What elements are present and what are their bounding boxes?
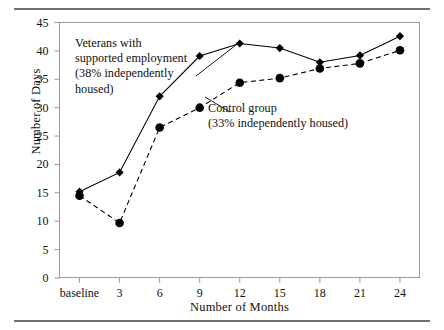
data-point-1-8 bbox=[396, 46, 405, 55]
annotation-veterans-line-3: housed) bbox=[75, 82, 255, 97]
y-tick-label-10: 10 bbox=[13, 215, 49, 227]
y-axis-tick-marks bbox=[55, 23, 60, 279]
x-tick-label-baseline: baseline bbox=[60, 287, 99, 299]
annotation-veterans-line-2: (38% independently bbox=[75, 66, 255, 81]
y-tick-label-35: 35 bbox=[13, 73, 49, 85]
data-point-1-3 bbox=[195, 103, 204, 112]
annotation-veterans-line-0: Veterans with bbox=[75, 36, 255, 51]
data-point-1-2 bbox=[155, 123, 164, 132]
x-axis-title: Number of Months bbox=[59, 300, 420, 315]
data-point-0-7 bbox=[356, 51, 364, 59]
y-tick-label-20: 20 bbox=[13, 158, 49, 170]
x-tick-label-21: 21 bbox=[354, 287, 366, 299]
x-tick-label-12: 12 bbox=[234, 287, 246, 299]
data-point-1-6 bbox=[316, 64, 325, 73]
data-point-0-8 bbox=[396, 32, 404, 40]
annotation-control-line-1: (33% independently housed) bbox=[208, 116, 408, 131]
figure-container: Number of Days Number of Months 05101520… bbox=[0, 0, 444, 330]
annotation-veterans: Veterans with supported employment (38% … bbox=[75, 36, 255, 97]
annotation-control-group: Control group (33% independently housed) bbox=[208, 101, 408, 131]
y-tick-label-40: 40 bbox=[13, 45, 49, 57]
y-tick-label-5: 5 bbox=[13, 244, 49, 256]
annotation-control-line-0: Control group bbox=[208, 101, 408, 116]
y-tick-label-0: 0 bbox=[13, 272, 49, 284]
x-tick-label-3: 3 bbox=[117, 287, 123, 299]
x-tick-label-24: 24 bbox=[394, 287, 406, 299]
data-point-1-1 bbox=[115, 219, 124, 228]
x-tick-label-6: 6 bbox=[157, 287, 163, 299]
y-tick-label-30: 30 bbox=[13, 102, 49, 114]
x-tick-label-18: 18 bbox=[314, 287, 326, 299]
x-tick-label-15: 15 bbox=[274, 287, 286, 299]
data-point-1-0 bbox=[75, 191, 84, 200]
x-tick-label-9: 9 bbox=[197, 287, 203, 299]
data-point-0-1 bbox=[115, 168, 123, 176]
y-tick-label-15: 15 bbox=[13, 187, 49, 199]
data-point-1-5 bbox=[276, 74, 285, 83]
y-tick-label-25: 25 bbox=[13, 130, 49, 142]
data-point-1-7 bbox=[356, 59, 365, 68]
x-axis-tick-marks bbox=[80, 278, 400, 283]
data-point-0-5 bbox=[276, 44, 284, 52]
annotation-veterans-line-1: supported employment bbox=[75, 51, 255, 66]
y-tick-label-45: 45 bbox=[13, 17, 49, 29]
